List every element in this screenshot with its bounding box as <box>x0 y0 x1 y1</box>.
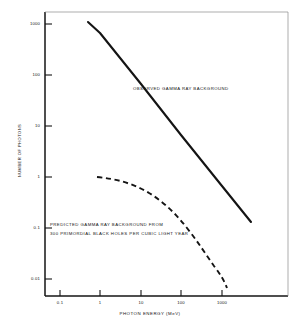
y-tick-label-100: 100 <box>12 72 40 77</box>
predicted-curve-label-line1: PREDICTED GAMMA RAY BACKGROUND FROM <box>50 221 163 229</box>
observed-curve-label: OBSERVED GAMMA RAY BACKGROUND <box>133 85 229 93</box>
x-tick-label-1: 1 <box>88 300 112 305</box>
x-axis-title: PHOTON ENERGY (MeV) <box>0 311 300 316</box>
x-tick-label-1000: 1000 <box>210 300 234 305</box>
x-tick-label-100: 100 <box>169 300 193 305</box>
x-tick-label-0-1: 0.1 <box>48 300 72 305</box>
y-tick-label-0-1: 0.1 <box>12 225 40 230</box>
predicted-curve-label-line2: 300 PRIMORDIAL BLACK HOLES PER CUBIC LIG… <box>50 230 188 238</box>
y-tick-label-0-01: 0.01 <box>12 276 40 281</box>
y-tick-label-1000: 1000 <box>12 21 40 26</box>
y-axis-title: NUMBER OF PHOTONS <box>17 96 22 206</box>
x-tick-label-10: 10 <box>129 300 153 305</box>
gamma-ray-background-chart <box>0 0 300 332</box>
